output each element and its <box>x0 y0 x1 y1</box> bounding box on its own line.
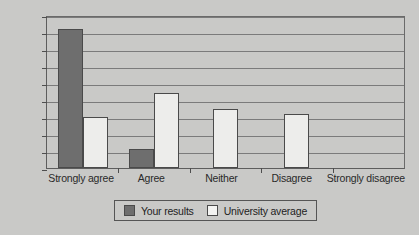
legend-item: University average <box>207 205 307 217</box>
legend-label: University average <box>224 205 307 217</box>
y-axis-tick-mark <box>42 136 47 137</box>
bar-chart: 0102030405060708090 Strongly agreeAgreeN… <box>0 0 419 235</box>
y-axis-tick-mark <box>42 102 47 103</box>
x-axis-tick-label: Disagree <box>257 172 327 184</box>
bar-group <box>333 17 404 168</box>
y-axis-tick-mark <box>42 119 47 120</box>
bar-1 <box>154 93 179 168</box>
plot-area <box>46 16 405 169</box>
chart-legend: Your resultsUniversity average <box>114 200 317 221</box>
y-axis-tick-mark <box>42 85 47 86</box>
bar-group <box>190 17 261 168</box>
x-axis-tick-label: Strongly disagree <box>327 172 405 184</box>
bar-group <box>261 17 332 168</box>
bar-group <box>47 17 118 168</box>
y-axis-tick-mark <box>42 34 47 35</box>
y-axis-tick-mark <box>42 170 47 171</box>
bar-1 <box>83 117 108 168</box>
y-axis-tick-mark <box>42 17 47 18</box>
legend-item: Your results <box>124 205 194 217</box>
bar-1 <box>213 109 238 169</box>
y-axis-tick-mark <box>42 153 47 154</box>
x-axis-tick-labels: Strongly agreeAgreeNeitherDisagreeStrong… <box>46 172 405 184</box>
bar-group <box>118 17 189 168</box>
y-axis-tick-mark <box>42 68 47 69</box>
x-axis-tick-label: Neither <box>186 172 256 184</box>
legend-swatch-icon <box>207 205 218 216</box>
bar-groups <box>47 17 404 168</box>
bar-0 <box>129 149 154 168</box>
bar-0 <box>58 29 83 168</box>
x-axis-tick-label: Agree <box>116 172 186 184</box>
legend-swatch-icon <box>124 205 135 216</box>
y-axis-tick-mark <box>42 51 47 52</box>
legend-label: Your results <box>141 205 194 217</box>
bar-1 <box>284 114 309 168</box>
x-axis-tick-label: Strongly agree <box>46 172 116 184</box>
